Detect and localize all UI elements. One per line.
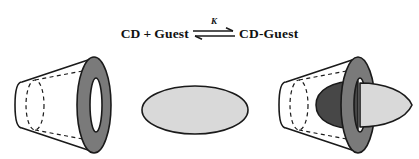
equilibrium-arrow-icon <box>193 27 235 41</box>
cavity-opening <box>90 78 102 132</box>
free-cyclodextrin-illustration <box>8 52 126 159</box>
product-label: CD-Guest <box>239 26 298 42</box>
equilibrium-arrow-group: K <box>193 16 235 42</box>
plus-sign: + <box>141 26 155 42</box>
figure-canvas: CD + Guest K CD-Guest <box>0 0 419 159</box>
free-guest-illustration <box>140 84 250 136</box>
reactant-guest-label: Guest <box>154 26 189 42</box>
chemical-equation: CD + Guest K CD-Guest <box>0 12 419 42</box>
cyclodextrin-rim-annulus <box>77 57 111 153</box>
guest-ellipse <box>142 86 248 134</box>
equilibrium-constant-label: K <box>193 16 235 26</box>
reactant-host-label: CD <box>121 26 141 42</box>
guest-protruding-portion <box>360 83 412 127</box>
inclusion-complex-illustration <box>272 52 418 159</box>
